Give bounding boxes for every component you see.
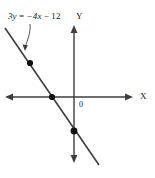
point-marker-y-intercept [71,128,78,135]
x-axis-label: X [140,92,147,101]
x-axis-left-arrowhead [5,94,13,101]
coordinate-plane-svg [0,0,155,178]
point-marker-x-intercept [49,94,55,100]
x-axis [5,94,133,101]
y-axis-top-arrowhead [71,25,78,33]
leader-arrow [23,24,31,51]
y-axis-label: Y [76,12,83,21]
equation-term-2: − 12 [44,11,61,21]
graph-figure: Y X 0 3y = −4x − 12 [0,0,155,178]
equation-term-1: −4x [27,11,42,21]
equation-equals: = [19,11,24,21]
y-axis [71,25,78,163]
y-axis-bottom-arrowhead [71,155,78,163]
equation-annotation: 3y = −4x − 12 [8,12,61,21]
equation-lhs: 3y [8,11,17,21]
point-marker-upper [27,60,33,66]
origin-label: 0 [79,101,83,109]
x-axis-right-arrowhead [125,94,133,101]
